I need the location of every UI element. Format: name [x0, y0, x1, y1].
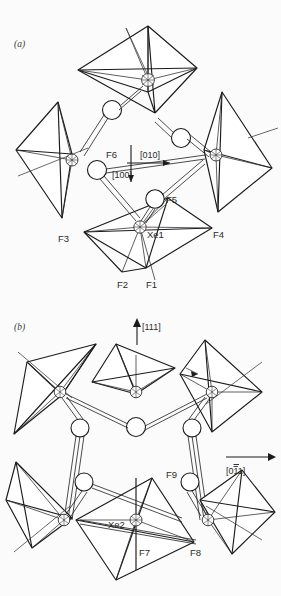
label-f4: F4	[213, 229, 224, 240]
atom-f6	[88, 161, 107, 180]
label-f1: F1	[146, 279, 157, 290]
dir-label-010: [010]	[140, 150, 160, 160]
label-f9: F9	[166, 469, 177, 480]
label-xe1: Xe1	[147, 229, 164, 240]
crystal-structure-figure: (a)	[0, 0, 281, 596]
label-f2: F2	[117, 279, 128, 290]
atom-f9	[181, 473, 199, 491]
dir-label-100: [100]	[112, 170, 132, 180]
dir-0m11-post: 1]	[238, 466, 246, 476]
label-f7: F7	[139, 547, 150, 558]
dir-0m11-pre: [0	[226, 466, 234, 476]
atom-f-b-bridge-right	[183, 419, 201, 437]
atom-f-bridge-upper-right	[172, 129, 191, 148]
atom-f-bridge-upper-left	[103, 101, 122, 120]
panel-a-tag: (a)	[14, 39, 25, 50]
dir-label-0m11: [011]	[226, 465, 245, 477]
label-f5: F5	[166, 194, 177, 205]
panel-b-tag: (b)	[14, 322, 25, 333]
atom-f-b-bridge-left	[71, 419, 89, 437]
label-xe2: Xe2	[108, 519, 125, 530]
label-f6: F6	[106, 149, 117, 160]
atom-f-b-low-left	[75, 473, 93, 491]
svg-text:[011]: [011]	[226, 466, 245, 476]
label-f3: F3	[58, 233, 69, 244]
label-f8: F8	[190, 547, 201, 558]
atom-f5	[146, 190, 164, 208]
atom-f-b-bridge-centre	[127, 418, 146, 437]
dir-label-111: [111]	[142, 322, 161, 332]
